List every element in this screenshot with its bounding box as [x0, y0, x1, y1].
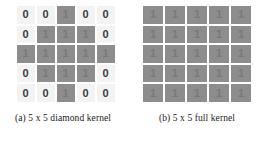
- kernel-cell: 1: [76, 44, 96, 64]
- kernel-cell: 1: [164, 44, 186, 64]
- kernel-cell: 1: [56, 44, 76, 64]
- subfigure-diamond-kernel: 0010001110111110111000100 (a) 5 x 5 diam…: [0, 0, 131, 125]
- kernel-cell: 0: [16, 64, 36, 84]
- kernel-cell: 1: [96, 44, 116, 64]
- kernel-cell: 1: [76, 64, 96, 84]
- kernel-cell: 1: [230, 83, 252, 103]
- figure-container: 0010001110111110111000100 (a) 5 x 5 diam…: [0, 0, 263, 153]
- kernel-cell: 1: [186, 64, 208, 84]
- kernel-cell: 0: [16, 25, 36, 45]
- kernel-cell: 0: [36, 5, 56, 25]
- kernel-cell: 1: [142, 44, 164, 64]
- subfigure-full-kernel: 1111111111111111111111111 (b) 5 x 5 full…: [131, 0, 263, 125]
- kernel-cell: 1: [208, 5, 230, 25]
- kernel-cell: 1: [142, 25, 164, 45]
- kernel-cell: 1: [36, 64, 56, 84]
- kernel-cell: 1: [208, 64, 230, 84]
- kernel-cell: 1: [76, 25, 96, 45]
- kernel-cell: 0: [36, 83, 56, 103]
- kernel-cell: 1: [186, 5, 208, 25]
- kernel-cell: 1: [164, 5, 186, 25]
- kernel-cell: 1: [36, 44, 56, 64]
- kernel-cell: 1: [16, 44, 36, 64]
- kernel-cell: 1: [208, 83, 230, 103]
- kernel-cell: 1: [230, 5, 252, 25]
- full-kernel-grid-wrap: 1111111111111111111111111: [142, 5, 252, 103]
- kernel-cell: 1: [56, 25, 76, 45]
- kernel-cell: 1: [164, 83, 186, 103]
- kernel-cell: 1: [186, 44, 208, 64]
- subfigure-caption-b: (b) 5 x 5 full kernel: [139, 112, 255, 125]
- kernel-cell: 1: [142, 83, 164, 103]
- diamond-kernel-grid: 0010001110111110111000100: [16, 5, 116, 103]
- subfigure-caption-a: (a) 5 x 5 diamond kernel: [15, 112, 116, 125]
- kernel-cell: 1: [230, 44, 252, 64]
- diamond-kernel-grid-wrap: 0010001110111110111000100: [16, 5, 116, 103]
- kernel-cell: 0: [96, 25, 116, 45]
- kernel-cell: 1: [186, 25, 208, 45]
- kernel-cell: 1: [36, 25, 56, 45]
- kernel-cell: 1: [56, 5, 76, 25]
- kernel-cell: 0: [96, 5, 116, 25]
- kernel-cell: 1: [142, 64, 164, 84]
- kernel-cell: 1: [208, 25, 230, 45]
- kernel-cell: 1: [56, 64, 76, 84]
- kernel-cell: 1: [230, 25, 252, 45]
- kernel-cell: 1: [208, 44, 230, 64]
- kernel-cell: 0: [96, 83, 116, 103]
- kernel-cell: 0: [96, 64, 116, 84]
- kernel-cell: 1: [56, 83, 76, 103]
- kernel-cell: 1: [186, 83, 208, 103]
- full-kernel-grid: 1111111111111111111111111: [142, 5, 252, 103]
- kernel-cell: 0: [76, 5, 96, 25]
- kernel-cell: 1: [164, 25, 186, 45]
- kernel-cell: 0: [76, 83, 96, 103]
- kernel-cell: 0: [16, 5, 36, 25]
- kernel-cell: 1: [164, 64, 186, 84]
- kernel-cell: 1: [142, 5, 164, 25]
- kernel-cell: 0: [16, 83, 36, 103]
- kernel-cell: 1: [230, 64, 252, 84]
